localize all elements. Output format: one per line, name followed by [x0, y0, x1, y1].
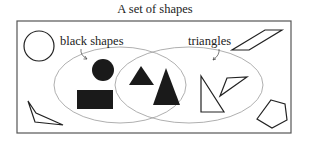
universe-frame — [17, 21, 291, 133]
venn-diagram: black shapes triangles — [0, 0, 310, 143]
white-parallelogram — [232, 30, 282, 50]
black-shapes-label: black shapes — [60, 34, 124, 48]
triangles-label: triangles — [188, 34, 231, 48]
black-triangle-tall — [153, 68, 180, 105]
white-obtuse-triangle — [220, 77, 247, 96]
black-circle — [92, 59, 114, 81]
white-circle — [24, 31, 54, 61]
white-obtuse-triangle-outside — [28, 101, 63, 125]
white-pentagon — [257, 100, 287, 128]
black-triangle-small — [129, 66, 154, 85]
black-rectangle — [77, 90, 113, 109]
